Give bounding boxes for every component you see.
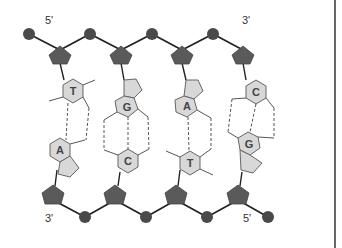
- base-label-c-top: C: [252, 86, 260, 98]
- top-phosphates: [23, 28, 219, 40]
- sugar-top-2: [110, 46, 132, 64]
- sugar-top-4: [232, 46, 254, 64]
- label-bottom-5prime: 5': [243, 212, 251, 224]
- phosphate-bottom-2: [140, 211, 152, 223]
- phosphate-top-2: [84, 28, 96, 40]
- base-label-t-bottom: T: [187, 157, 194, 169]
- phosphate-bottom-4: [262, 211, 274, 223]
- base-label-t-top: T: [70, 85, 77, 97]
- phosphate-top-3: [146, 28, 158, 40]
- sugar-bottom-3: [165, 185, 187, 204]
- phosphate-bottom-3: [201, 211, 213, 223]
- sugar-bottom-1: [42, 185, 64, 204]
- base-label-g-top: G: [123, 101, 132, 113]
- sugar-top-3: [171, 46, 193, 64]
- bottom-sugars: [42, 185, 249, 204]
- base-label-g-bottom: G: [245, 138, 254, 150]
- phosphate-top-1: [23, 28, 35, 40]
- top-glycosidic-bonds: [60, 63, 246, 80]
- sugar-bottom-4: [227, 185, 249, 204]
- dna-diagram: T A G C A T C G 5' 3' 3' 5': [0, 0, 342, 248]
- label-bottom-3prime: 3': [45, 212, 53, 224]
- base-label-a-bottom: A: [56, 144, 64, 156]
- phosphate-top-4: [207, 28, 219, 40]
- bottom-glycosidic-bonds: [55, 170, 242, 186]
- base-pair-4: [228, 80, 274, 173]
- top-sugars: [49, 46, 254, 64]
- label-top-5prime: 5': [45, 14, 53, 26]
- sugar-top-1: [49, 46, 71, 64]
- base-label-a-top: A: [183, 100, 191, 112]
- label-top-3prime: 3': [242, 14, 250, 26]
- sugar-bottom-2: [104, 185, 126, 204]
- right-border: [334, 0, 336, 248]
- base-label-c-bottom: C: [124, 155, 132, 167]
- phosphate-bottom-1: [79, 211, 91, 223]
